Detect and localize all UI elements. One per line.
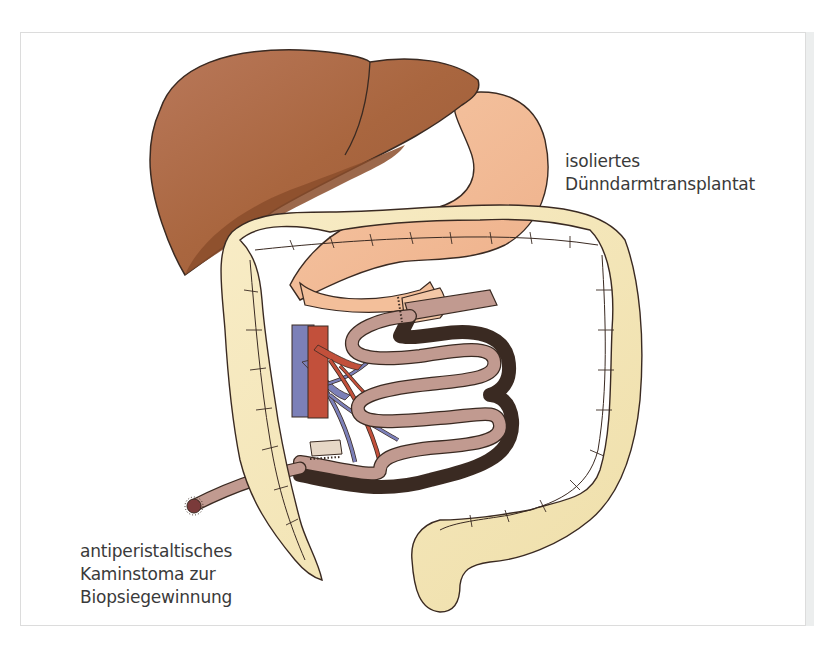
transplant-label-line1: isoliertes xyxy=(565,150,755,173)
colon-icon xyxy=(221,205,642,612)
transplant-label: isoliertes Dünndarmtransplantat xyxy=(565,150,755,196)
stoma-label: antiperistaltisches Kaminstoma zur Biops… xyxy=(80,540,232,609)
transplant-label-line2: Dünndarmtransplantat xyxy=(565,173,755,196)
stoma-label-line1: antiperistaltisches xyxy=(80,540,232,563)
stoma-label-line3: Biopsiegewinnung xyxy=(80,586,232,609)
stoma-label-line2: Kaminstoma zur xyxy=(80,563,232,586)
